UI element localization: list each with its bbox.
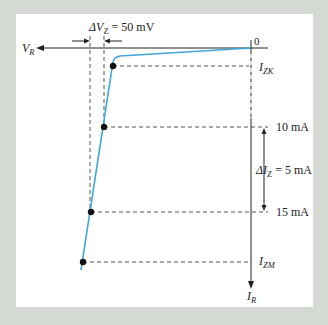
diz-arrow-down-icon [262,205,267,211]
ir-arrow-icon [248,281,254,289]
point-15ma [88,209,94,215]
delta-vz-label: ΔVZ = 50 mV [88,20,155,36]
vr-label: VR [22,41,35,57]
point-izm [80,259,86,265]
point-10ma [101,124,107,130]
izk-label: IZK [258,60,275,76]
dvz-arrow-right-icon [104,39,110,44]
diz-arrow-up-icon [262,128,267,134]
dvz-arrow-left-icon [84,39,90,44]
vr-arrow-icon [36,45,44,51]
delta-iz-label: ΔIZ = 5 mA [255,163,312,179]
zener-curve [81,48,251,270]
izm-label: IZM [258,254,276,270]
zener-characteristic-diagram: ΔVZ = 50 mV VR 0 IZK 10 mA ΔIZ = 5 mA 15… [0,0,328,325]
origin-label: 0 [254,35,260,47]
ir-label: IR [246,289,257,305]
10ma-label: 10 mA [276,120,309,134]
15ma-label: 15 mA [276,205,309,219]
point-izk [110,63,116,69]
